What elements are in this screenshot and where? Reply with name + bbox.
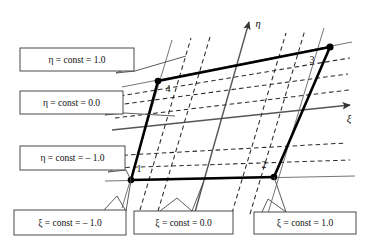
figure-canvas: 1 2 3 4 η ξ η = const = 1.0 η = const = … [0, 0, 374, 244]
edge-1-2 [131, 177, 274, 180]
callout-label-eta-minus-one: η = const = – 1.0 [40, 153, 104, 163]
callout-xi-const-plus-one[interactable]: ξ = const = 1.0 [254, 212, 356, 234]
leader-xi-const-minus-one [104, 180, 131, 211]
element-boundary [131, 47, 330, 180]
callout-xi-const-zero[interactable]: ξ = const = 0.0 [134, 211, 233, 234]
node-dot-3 [326, 43, 333, 50]
node-label-2: 2 [262, 159, 267, 170]
node-label-1: 1 [137, 163, 142, 174]
eta-const-line-dashed-1 [108, 143, 346, 156]
callout-eta-const-zero[interactable]: η = const = 0.0 [20, 91, 123, 114]
callout-eta-const-minus-one[interactable]: η = const = – 1.0 [20, 146, 125, 170]
node-label-4: 4 [166, 83, 171, 94]
node-dot-4 [155, 78, 162, 85]
eta-subline-a [110, 160, 350, 168]
xi-const-line-family [122, 22, 324, 213]
xi-axis-label: ξ [347, 113, 352, 125]
edge-4-1 [131, 81, 158, 180]
node-label-3: 3 [310, 54, 315, 65]
callout-label-xi-zero: ξ = const = 0.0 [155, 218, 212, 229]
callout-label-xi-plus-one: ξ = const = 1.0 [277, 218, 334, 229]
eta-axis-label: η [255, 18, 260, 29]
callout-xi-const-minus-one[interactable]: ξ = const = – 1.0 [14, 210, 126, 235]
callout-label-eta-zero: η = const = 0.0 [43, 98, 100, 108]
callout-label-xi-minus-one: ξ = const = – 1.0 [38, 218, 102, 229]
callout-label-eta-plus-one: η = const = 1.0 [48, 55, 105, 65]
isoparametric-element-diagram: 1 2 3 4 η ξ η = const = 1.0 η = const = … [0, 0, 374, 244]
callout-leaders [104, 56, 286, 212]
callout-eta-const-plus-one[interactable]: η = const = 1.0 [20, 48, 134, 71]
